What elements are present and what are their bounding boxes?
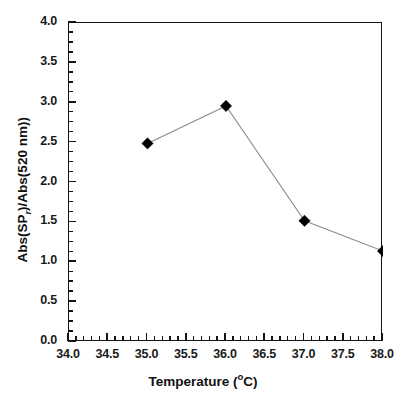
x-tick-minor [177,336,178,341]
x-tick-major [303,333,305,341]
x-tick-minor [216,336,217,341]
y-tick-minor [68,241,73,242]
y-tick-minor [68,290,73,291]
y-tick-minor [68,211,73,212]
x-tick-label: 34.0 [56,347,80,361]
y-tick-major [68,300,76,302]
x-tick-minor [279,336,280,341]
y-tick-minor [68,41,73,42]
data-point-marker [142,138,153,149]
x-tick-minor [122,336,123,341]
x-tick-label: 37.5 [331,347,355,361]
x-tick-minor [209,336,210,341]
y-tick-major [68,181,76,183]
series-line [148,106,384,251]
y-tick-major [68,61,76,63]
y-tick-minor [68,271,73,272]
y-tick-minor [68,320,73,321]
x-tick-minor [193,336,194,341]
y-tick-minor [68,251,73,252]
data-point-marker [299,215,310,226]
x-tick-label: 37.0 [292,347,316,361]
y-tick-label: 4.0 [0,14,57,28]
x-tick-major [263,333,265,341]
y-tick-minor [68,31,73,32]
x-tick-minor [240,336,241,341]
x-tick-minor [248,336,249,341]
x-tick-minor [256,336,257,341]
y-tick-minor [68,121,73,122]
y-tick-minor [68,111,73,112]
x-tick-minor [130,336,131,341]
y-tick-major [68,141,76,143]
x-tick-minor [91,336,92,341]
x-tick-minor [358,336,359,341]
x-tick-label: 35.5 [174,347,198,361]
plot-area [69,23,381,340]
y-tick-minor [68,91,73,92]
x-axis-title: Temperature (oC) [0,371,406,389]
plot-frame [68,22,382,341]
x-tick-minor [162,336,163,341]
y-tick-minor [68,81,73,82]
y-tick-minor [68,201,73,202]
y-tick-minor [68,171,73,172]
data-series-svg [69,23,383,342]
y-tick-minor [68,231,73,232]
x-tick-label: 35.0 [135,347,159,361]
y-tick-major [68,221,76,223]
data-point-marker [377,245,383,256]
y-tick-major [68,260,76,262]
x-tick-minor [366,336,367,341]
x-tick-minor [319,336,320,341]
x-tick-minor [75,336,76,341]
y-tick-minor [68,131,73,132]
x-tick-major [342,333,344,341]
x-tick-minor [295,336,296,341]
x-tick-major [381,333,383,341]
x-tick-minor [373,336,374,341]
x-tick-minor [271,336,272,341]
x-tick-minor [201,336,202,341]
y-tick-major [68,101,76,103]
x-tick-minor [287,336,288,341]
x-tick-major [67,333,69,341]
y-tick-minor [68,310,73,311]
x-tick-minor [138,336,139,341]
y-tick-minor [68,330,73,331]
x-tick-minor [114,336,115,341]
y-tick-minor [68,151,73,152]
x-tick-major [224,333,226,341]
y-tick-label: 0.0 [0,333,57,347]
x-tick-minor [350,336,351,341]
y-tick-minor [68,191,73,192]
x-tick-minor [334,336,335,341]
x-tick-label: 34.5 [95,347,119,361]
y-tick-minor [68,51,73,52]
y-tick-minor [68,71,73,72]
data-point-marker [220,100,231,111]
x-tick-minor [169,336,170,341]
y-tick-minor [68,280,73,281]
x-tick-major [146,333,148,341]
x-tick-minor [154,336,155,341]
x-tick-minor [326,336,327,341]
x-tick-major [185,333,187,341]
x-tick-minor [232,336,233,341]
x-tick-label: 36.0 [213,347,237,361]
y-axis-title: Abs(SPr)/Abs(520 nm)) [15,65,33,315]
x-tick-minor [99,336,100,341]
x-tick-minor [311,336,312,341]
x-tick-label: 36.5 [252,347,276,361]
figure-canvas: 0.00.51.01.52.02.53.03.54.034.034.535.03… [0,0,406,408]
x-tick-label: 38.0 [370,347,394,361]
y-tick-major [68,21,76,23]
y-tick-minor [68,161,73,162]
x-tick-minor [83,336,84,341]
x-tick-major [106,333,108,341]
